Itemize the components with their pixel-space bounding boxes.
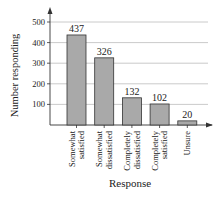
category-label: Completely bbox=[122, 130, 132, 170]
x-axis-arrow-icon bbox=[206, 123, 213, 128]
category-label: Unsure bbox=[182, 131, 192, 156]
y-tick-label: 100 bbox=[32, 99, 45, 109]
category-label: satisfied bbox=[159, 130, 169, 159]
bar bbox=[67, 35, 86, 125]
bar bbox=[150, 104, 169, 125]
y-axis-title: Number responding bbox=[9, 33, 20, 117]
x-axis-title: Response bbox=[109, 177, 151, 189]
bar bbox=[122, 98, 141, 125]
category-label: Completely bbox=[150, 130, 160, 170]
plot-area: 100200300400500437Somewhatsatisfied326So… bbox=[0, 0, 223, 203]
y-axis-arrow-icon bbox=[48, 7, 53, 14]
category-label: dissatisfied bbox=[132, 130, 142, 169]
category-label: Somewhat bbox=[67, 130, 77, 167]
category-label: dissatisfied bbox=[104, 130, 114, 169]
data-label: 326 bbox=[97, 46, 112, 57]
y-tick-label: 400 bbox=[32, 38, 45, 48]
y-tick-label: 300 bbox=[32, 58, 45, 68]
bar-chart: 100200300400500437Somewhatsatisfied326So… bbox=[0, 0, 223, 203]
y-tick-label: 500 bbox=[32, 17, 45, 27]
y-tick-label: 200 bbox=[32, 79, 45, 89]
data-label: 437 bbox=[69, 23, 84, 34]
bar bbox=[95, 58, 114, 125]
category-label: satisfied bbox=[76, 130, 86, 159]
data-label: 102 bbox=[152, 92, 167, 103]
data-label: 132 bbox=[124, 86, 139, 97]
category-label: Somewhat bbox=[94, 130, 104, 167]
bar bbox=[178, 121, 197, 125]
data-label: 20 bbox=[182, 109, 192, 120]
